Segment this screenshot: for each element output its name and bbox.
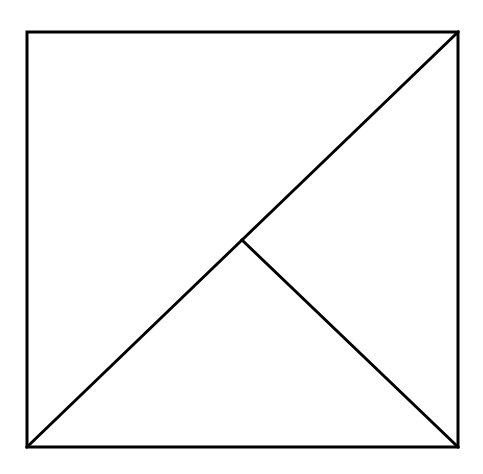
inner-segment-line [242,240,458,447]
diagram-canvas [0,0,483,474]
